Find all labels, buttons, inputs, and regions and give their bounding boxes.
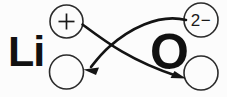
electron-transfer-diagram: 2− Li O (0, 0, 227, 97)
oxygen-charge-label: 2− (191, 11, 211, 30)
diagram-canvas: 2− Li O (0, 0, 227, 97)
lithium-symbol: Li (8, 27, 44, 75)
oxygen-symbol: O (150, 24, 189, 80)
